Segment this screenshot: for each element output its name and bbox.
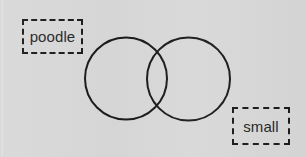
label-box-small[interactable]: small	[232, 107, 290, 145]
label-box-poodle[interactable]: poodle	[22, 19, 83, 54]
venn-circle-left[interactable]	[85, 38, 167, 120]
venn-circle-right[interactable]	[147, 38, 230, 121]
label-text-poodle: poodle	[30, 29, 76, 44]
label-text-small: small	[243, 119, 279, 134]
venn-diagram-canvas: poodle small	[0, 0, 306, 157]
